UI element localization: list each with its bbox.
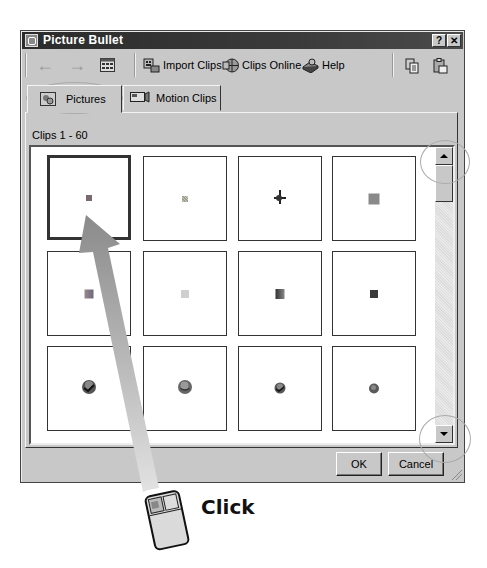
mouse-icon	[142, 487, 194, 557]
click-instruction-label: Click	[201, 495, 255, 519]
tab-pictures-label: Pictures	[66, 93, 106, 105]
tab-pictures[interactable]: Pictures	[27, 85, 122, 113]
pictures-icon	[40, 92, 56, 106]
